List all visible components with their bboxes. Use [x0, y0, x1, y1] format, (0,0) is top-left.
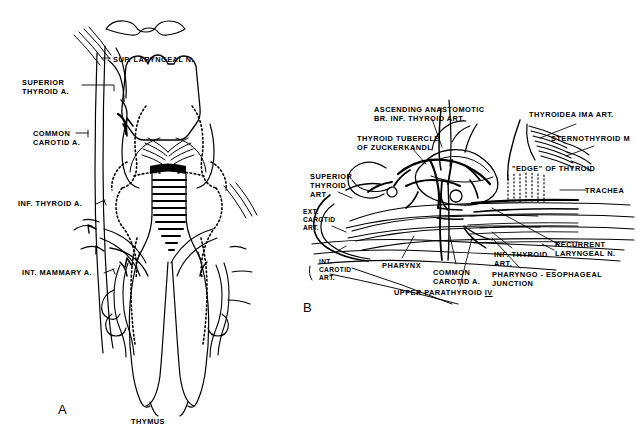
label-upper-parathyroid-text: UPPER PARATHYROID [394, 288, 485, 297]
panel-a-artwork [74, 21, 257, 416]
label-int-carotid-art: INT. CAROTID ART. [319, 258, 352, 283]
label-superior-thyroid-a: SUPERIOR THYROID A. [22, 78, 69, 96]
label-recurrent-laryngeal-n: RECURRENT LARYNGEAL N. [555, 240, 615, 258]
label-ext-carotid-art: EXT. CAROTID ART. [303, 208, 336, 233]
label-upper-parathyroid-numeral: IV [485, 288, 493, 297]
label-thyroid-tubercle-of-zuckerkandl: THYROID TUBERCLE OF ZUCKERKANDL [357, 134, 440, 152]
panel-letter-b: B [303, 300, 312, 315]
panel-letter-a: A [58, 402, 67, 417]
label-trachea: TRACHEA [585, 186, 624, 195]
label-edge-of-thyroid: "EDGE" OF THYROID [512, 164, 595, 173]
label-thyroidea-ima-art: THYROIDEA IMA ART. [529, 110, 614, 119]
label-inf-thyroid-a: INF. THYROID A. [18, 199, 82, 208]
label-sternothyroid-m: STERNOTHYROID M [551, 134, 630, 143]
label-int-mammary-a: INT. MAMMARY A. [22, 268, 92, 277]
label-inf-thyroid-art: INF. THYROID ART. [494, 250, 548, 268]
label-upper-parathyroid: UPPER PARATHYROID IV [394, 288, 493, 297]
label-common-carotid-a: COMMON CAROTID A. [33, 129, 80, 147]
label-pharynx: PHARYNX [382, 261, 421, 270]
label-superior-thyroid-art: SUPERIOR THYROID ART [310, 172, 352, 200]
label-pharyngo-esophageal-junction: PHARYNGO - ESOPHAGEAL JUNCTION [492, 270, 602, 288]
label-common-carotid-a-b: COMMON CAROTID A. [433, 268, 480, 286]
label-thymus: THYMUS [131, 417, 165, 426]
label-sup-laryngeal-n: SUP. LARYNGEAL N. [113, 55, 194, 64]
anatomical-figure: SUP. LARYNGEAL N. SUPERIOR THYROID A. CO… [0, 0, 637, 434]
label-ascending-anastomotic-br-inf-thyroid-art: ASCENDING ANASTOMOTIC BR. INF. THYROID A… [374, 105, 484, 123]
